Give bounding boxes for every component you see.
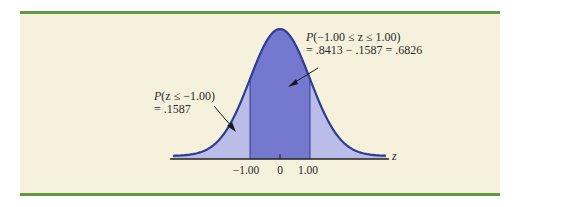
left-line2: = .1587	[154, 103, 215, 116]
left-line1: (z ≤ −1.00)	[161, 89, 215, 103]
center-line1: (−1.00 ≤ z ≤ 1.00)	[313, 30, 400, 44]
left-arrow	[214, 106, 232, 127]
tick-label-neg1: −1.00	[233, 164, 260, 176]
tick-label-pos1: 1.00	[298, 164, 318, 176]
left-tail-probability-label: P(z ≤ −1.00) = .1587	[154, 90, 215, 116]
center-line2: = .8413 − .1587 = .6826	[306, 44, 422, 57]
normal-curve-chart	[0, 0, 571, 207]
center-area-fill	[250, 29, 310, 159]
tick-label-0: 0	[277, 164, 283, 176]
z-axis-label: z	[392, 149, 397, 164]
center-probability-label: P(−1.00 ≤ z ≤ 1.00) = .8413 − .1587 = .6…	[306, 31, 422, 57]
